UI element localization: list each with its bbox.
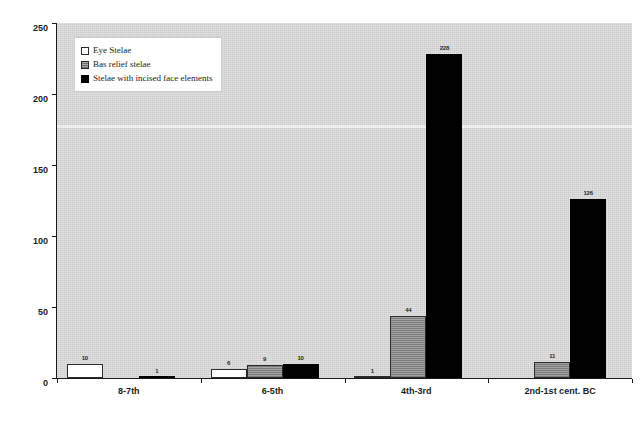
legend-label-bas-relief-stelae: Bas relief stelae bbox=[93, 60, 150, 69]
bar-value-label: 10 bbox=[297, 355, 303, 361]
bar-3-3 bbox=[426, 54, 462, 378]
legend-item-eye-stelae: Eye Stelae bbox=[81, 44, 212, 57]
y-axis-tick-label: 50 bbox=[0, 301, 48, 319]
legend-swatch-icon-eye-stelae bbox=[81, 47, 89, 55]
legend-swatch-icon-bas-relief-stelae bbox=[81, 61, 89, 69]
x-axis-tick bbox=[201, 379, 202, 383]
y-axis-tick bbox=[52, 236, 57, 237]
y-axis-line bbox=[56, 23, 57, 379]
x-axis-label-1: 8-7th bbox=[118, 386, 140, 396]
bar-value-label: 10 bbox=[82, 355, 88, 361]
bar-value-label: 9 bbox=[263, 356, 266, 362]
bar-1-1 bbox=[67, 364, 103, 378]
legend-item-incised-face-elements: Stelae with incised face elements bbox=[81, 72, 212, 85]
bar-2-1 bbox=[211, 369, 247, 378]
y-axis-tick-label: 0 bbox=[0, 372, 48, 390]
bar-value-label: 6 bbox=[227, 360, 230, 366]
bar-chart: 050100150200250 101691014422811126 8-7th… bbox=[0, 0, 644, 421]
x-axis-tick bbox=[57, 379, 58, 383]
y-axis-tick-label: 150 bbox=[0, 159, 48, 177]
x-axis-tick bbox=[488, 379, 489, 383]
bar-value-label: 228 bbox=[440, 45, 449, 51]
legend-item-bas-relief-stelae: Bas relief stelae bbox=[81, 58, 212, 71]
bar-2-3 bbox=[283, 364, 319, 378]
bar-value-label: 1 bbox=[371, 368, 374, 374]
y-axis-tick-label: 100 bbox=[0, 230, 48, 248]
bar-4-2 bbox=[534, 362, 570, 378]
bar-value-label: 1 bbox=[155, 368, 158, 374]
x-axis-label-4: 2nd-1st cent. BC bbox=[525, 386, 596, 396]
legend-label-eye-stelae: Eye Stelae bbox=[93, 46, 131, 55]
y-axis-tick-label: 250 bbox=[0, 17, 48, 35]
x-axis-label-3: 4th-3rd bbox=[401, 386, 432, 396]
bar-1-3 bbox=[139, 376, 175, 378]
y-axis-tick bbox=[52, 165, 57, 166]
bar-value-label: 44 bbox=[405, 307, 411, 313]
y-axis-tick bbox=[52, 307, 57, 308]
legend-label-incised-face-elements: Stelae with incised face elements bbox=[93, 74, 212, 83]
y-axis-tick-label: 200 bbox=[0, 88, 48, 106]
bar-3-1 bbox=[354, 376, 390, 378]
faint-gridline bbox=[57, 125, 632, 128]
x-axis-label-2: 6-5th bbox=[262, 386, 284, 396]
y-axis-tick bbox=[52, 94, 57, 95]
bar-value-label: 126 bbox=[583, 190, 592, 196]
chart-legend: Eye Stelae Bas relief stelae Stelae with… bbox=[74, 37, 222, 92]
bar-3-2 bbox=[390, 316, 426, 378]
legend-swatch-icon-incised-face-elements bbox=[81, 75, 89, 83]
x-axis-tick bbox=[345, 379, 346, 383]
y-axis-tick bbox=[52, 23, 57, 24]
bar-4-3 bbox=[570, 199, 606, 378]
x-axis-tick bbox=[632, 379, 633, 383]
bar-2-2 bbox=[247, 365, 283, 378]
bar-value-label: 11 bbox=[549, 353, 555, 359]
